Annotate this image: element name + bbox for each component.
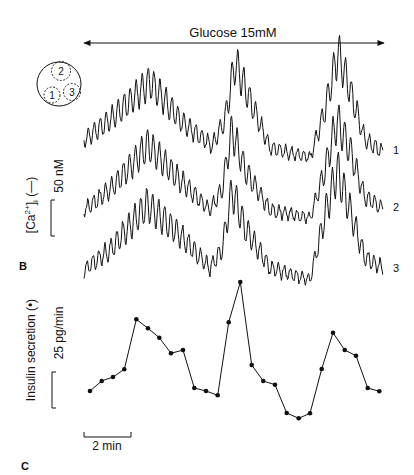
insulin-data-point bbox=[308, 411, 313, 416]
insulin-scale-label: 25 pg/min bbox=[52, 307, 66, 360]
trace-1-label: 1 bbox=[393, 144, 399, 156]
insulin-secretion-plot bbox=[88, 280, 382, 421]
panel-b-label: B bbox=[19, 260, 27, 272]
insulin-data-point bbox=[261, 379, 266, 384]
calcium-axis: [Ca2+]i (—) 50 nM bbox=[23, 159, 66, 236]
insulin-data-point bbox=[377, 389, 382, 394]
figure: Glucose 15mM 2 1 3 1 2 3 [Ca2+]i (—) 50 … bbox=[0, 0, 414, 475]
time-scale-bar bbox=[84, 432, 131, 437]
insulin-data-point bbox=[169, 351, 174, 356]
time-scale-label: 2 min bbox=[92, 439, 121, 453]
insulin-data-point bbox=[354, 353, 359, 358]
region-3-label: 3 bbox=[69, 87, 75, 98]
insulin-line bbox=[90, 282, 379, 418]
insulin-data-point bbox=[146, 326, 151, 331]
insulin-data-point bbox=[365, 386, 370, 391]
stimulus-label: Glucose 15mM bbox=[189, 25, 276, 40]
panel-c-label: C bbox=[21, 460, 29, 472]
insulin-data-point bbox=[134, 317, 139, 322]
insulin-data-point bbox=[111, 375, 116, 380]
calcium-scale-bar bbox=[51, 200, 55, 236]
insulin-data-point bbox=[88, 389, 93, 394]
insulin-axis: Insulin secretion (•) 25 pg/min bbox=[24, 299, 66, 408]
trace-3-label: 3 bbox=[393, 262, 399, 274]
time-scale: 2 min bbox=[84, 432, 131, 453]
region-1-label: 1 bbox=[49, 90, 55, 101]
insulin-data-point bbox=[157, 335, 162, 340]
insulin-data-point bbox=[331, 330, 336, 335]
islet-diagram: 2 1 3 bbox=[37, 62, 81, 107]
insulin-data-point bbox=[238, 280, 243, 285]
calcium-scale-label: 50 nM bbox=[52, 159, 66, 192]
insulin-data-point bbox=[204, 389, 209, 394]
insulin-data-point bbox=[284, 411, 289, 416]
insulin-axis-label: Insulin secretion (•) bbox=[24, 299, 38, 401]
insulin-data-point bbox=[192, 386, 197, 391]
insulin-data-point bbox=[342, 348, 347, 353]
insulin-data-point bbox=[99, 379, 104, 384]
insulin-data-point bbox=[122, 367, 127, 372]
calcium-trace-3 bbox=[84, 152, 383, 285]
insulin-data-point bbox=[249, 363, 254, 368]
insulin-data-point bbox=[226, 320, 231, 325]
insulin-data-point bbox=[319, 367, 324, 372]
calcium-traces bbox=[84, 35, 383, 285]
insulin-data-point bbox=[273, 382, 278, 387]
region-2-label: 2 bbox=[58, 66, 64, 77]
calcium-axis-label: [Ca2+]i (—) bbox=[23, 177, 40, 233]
insulin-scale-bar bbox=[52, 372, 56, 408]
insulin-data-point bbox=[215, 393, 220, 398]
insulin-data-point bbox=[181, 348, 186, 353]
trace-2-label: 2 bbox=[393, 201, 399, 213]
insulin-data-point bbox=[296, 416, 301, 421]
